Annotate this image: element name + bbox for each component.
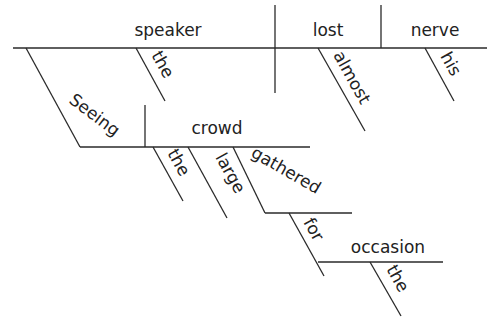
participle-word: Seeing — [66, 89, 124, 140]
gathered-word: gathered — [248, 142, 325, 198]
object-possessive-word: his — [437, 48, 466, 79]
subject-word: speaker — [134, 20, 201, 40]
crowd-adjective-word: large — [212, 149, 250, 196]
sentence-diagram: speaker lost nerve the almost his Seeing… — [0, 0, 492, 333]
occasion-article-word: the — [383, 261, 414, 295]
participle-object-word: crowd — [191, 118, 242, 138]
verb-word: lost — [313, 20, 344, 40]
prep-object-word: occasion — [351, 237, 425, 257]
verb-adverb-word: almost — [330, 47, 376, 107]
object-word: nerve — [411, 20, 460, 40]
